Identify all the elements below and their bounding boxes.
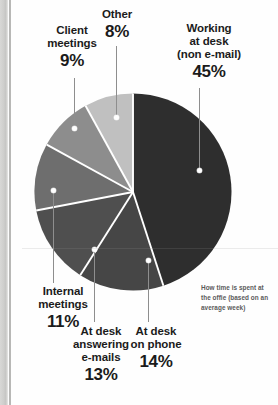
page-canvas: Other 8% Client meetings 9% Working at d… [0, 0, 278, 405]
callout-label-client-meetings: Client meetings 9% [39, 24, 105, 70]
callout-label-phone-line2: on phone [123, 338, 189, 351]
callout-label-internal-meetings: Internal meetings 11% [23, 285, 103, 331]
callout-label-at-desk-phone: At desk on phone 14% [123, 325, 189, 371]
chart-caption-line3: average week) [201, 303, 277, 313]
leader-line-internal [53, 191, 54, 283]
chart-caption-line2: the offie (based on an [201, 293, 277, 303]
callout-label-working-at-desk: Working at desk (non e-mail) 45% [167, 22, 251, 81]
leader-line-phone [148, 262, 149, 322]
callout-value-client-meetings: 9% [39, 51, 105, 70]
pie-chart-svg [34, 93, 232, 291]
callout-value-at-desk-phone: 14% [123, 352, 189, 371]
callout-label-internal-line2: meetings [23, 298, 103, 311]
leader-line-working [199, 88, 200, 170]
callout-dot-internal [51, 188, 56, 193]
callout-dot-working [197, 168, 202, 173]
callout-label-internal-line1: Internal [23, 285, 103, 298]
leader-line-client [74, 78, 75, 128]
callout-dot-client [72, 126, 77, 131]
leader-line-other [116, 46, 117, 118]
callout-label-working-line1: Working [167, 22, 251, 35]
chart-caption-line1: How time is spent at [201, 283, 277, 293]
callout-label-client-line1: Client [39, 24, 105, 37]
page-body: Other 8% Client meetings 9% Working at d… [11, 0, 278, 405]
callout-label-working-line3: (non e-mail) [167, 48, 251, 61]
callout-value-working-at-desk: 45% [167, 62, 251, 81]
callout-label-other-line1: Other [89, 8, 145, 21]
callout-label-phone-line1: At desk [123, 325, 189, 338]
pie-chart [34, 93, 232, 291]
callout-dot-phone [146, 258, 151, 263]
page-gutter-shadow [0, 0, 8, 405]
callout-dot-other [114, 115, 119, 120]
callout-label-working-line2: at desk [167, 35, 251, 48]
callout-label-client-line2: meetings [39, 37, 105, 50]
scan-seam [22, 248, 278, 249]
chart-caption: How time is spent at the offie (based on… [201, 283, 277, 313]
